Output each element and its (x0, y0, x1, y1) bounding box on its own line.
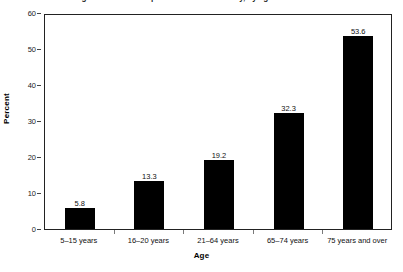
bar-value-label: 19.2 (199, 151, 239, 160)
bar-value-label: 53.6 (338, 27, 378, 36)
y-tick-label: 40 (28, 81, 36, 91)
bar (204, 160, 234, 229)
y-tick-mark (37, 157, 41, 158)
x-tick-mark (114, 230, 115, 234)
y-tick-mark (37, 85, 41, 86)
y-tick-label: 20 (28, 153, 36, 163)
x-tick-label: 75 years and over (312, 236, 402, 245)
y-tick: 0 (0, 225, 44, 235)
bar (274, 113, 304, 229)
y-tick-mark (37, 121, 41, 122)
y-tick: 30 (0, 117, 44, 127)
y-tick-label: 0 (32, 225, 36, 235)
y-tick-mark (37, 193, 41, 194)
y-tick-mark (37, 49, 41, 50)
y-tick-mark (37, 229, 41, 230)
y-tick: 20 (0, 153, 44, 163)
x-axis-label: Age (0, 251, 403, 260)
y-tick-label: 60 (28, 9, 36, 19)
x-tick-mark (253, 230, 254, 234)
y-tick-label: 30 (28, 117, 36, 127)
y-tick-label: 50 (28, 45, 36, 55)
bar-chart-figure: Figure 1. Percent of persons with a disa… (0, 0, 403, 272)
y-tick: 40 (0, 81, 44, 91)
bar (65, 208, 95, 229)
y-tick: 50 (0, 45, 44, 55)
bar-value-label: 32.3 (269, 104, 309, 113)
x-tick-mark (183, 230, 184, 234)
bar (134, 181, 164, 229)
figure-title: Figure 1. Percent of persons with a disa… (0, 0, 403, 5)
bar-value-label: 13.3 (129, 172, 169, 181)
bar (343, 36, 373, 229)
x-tick-mark (322, 230, 323, 234)
bar-value-label: 5.8 (60, 199, 100, 208)
y-tick: 10 (0, 189, 44, 199)
y-tick: 60 (0, 9, 44, 19)
y-tick-label: 10 (28, 189, 36, 199)
y-tick-mark (37, 13, 41, 14)
plot-area: 5.813.319.232.353.6 (44, 14, 392, 230)
